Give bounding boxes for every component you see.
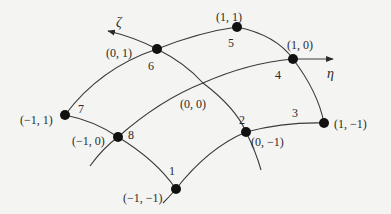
node-4-coord: (1, 0)	[287, 38, 313, 52]
node-2	[241, 127, 251, 137]
node-7-number: 7	[78, 102, 84, 116]
node-6	[152, 44, 162, 54]
node-3	[319, 118, 329, 128]
node-4-number: 4	[275, 68, 281, 82]
node-8	[113, 132, 123, 142]
node-5-number: 5	[228, 36, 234, 50]
node-1-number: 1	[169, 164, 175, 178]
node-1-coord: (−1, −1)	[123, 191, 163, 205]
node-2-number: 2	[239, 113, 245, 127]
center-coord: (0, 0)	[180, 97, 206, 111]
node-5-coord: (1, 1)	[216, 10, 242, 24]
node-1	[171, 184, 181, 194]
node-2-coord: (0, −1)	[251, 135, 284, 149]
node-7-coord: (−1, 1)	[20, 113, 53, 127]
node-8-number: 8	[128, 128, 134, 142]
edge-left	[65, 115, 176, 189]
midline-zeta0	[90, 59, 293, 166]
node-7	[60, 110, 70, 120]
node-6-coord: (0, 1)	[106, 46, 132, 60]
node-3-coord: (1, −1)	[334, 117, 367, 131]
node-4	[288, 54, 298, 64]
node-6-number: 6	[148, 59, 154, 73]
eta-axis-label: η	[327, 66, 334, 81]
element-diagram: ζ η 1 2 3 4 5 6 7 8 (−1, −1) (0, −1) (1,…	[0, 0, 391, 214]
zeta-axis-label: ζ	[116, 15, 123, 30]
node-8-coord: (−1, 0)	[72, 134, 105, 148]
node-3-number: 3	[292, 106, 298, 120]
